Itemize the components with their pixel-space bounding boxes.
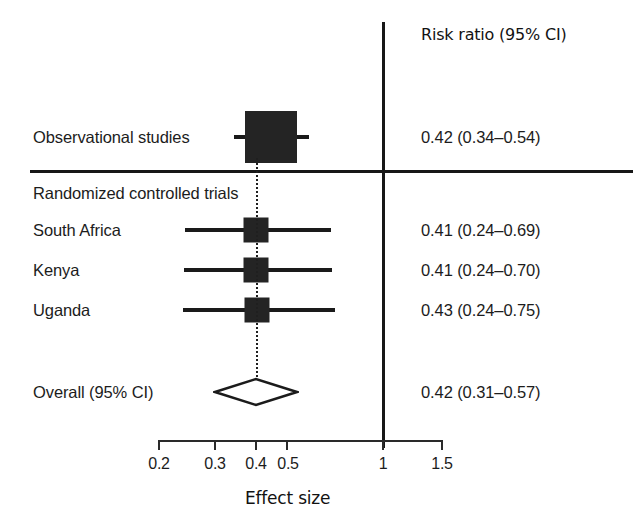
row-label-kenya: Kenya (33, 262, 79, 279)
row-label-overall: Overall (95% CI) (33, 384, 153, 401)
x-axis-title: Effect size (245, 490, 330, 507)
row-label-south-africa: South Africa (33, 222, 121, 239)
row-label-observational-studies: Observational studies (33, 129, 190, 146)
forest-plot: Risk ratio (95% CI) Observational studie… (0, 0, 640, 528)
x-axis-tick-label-1-5: 1.5 (431, 456, 452, 472)
summary-diamond-overall (213, 377, 299, 407)
x-axis-tick-0-4 (255, 440, 257, 450)
x-axis-line (158, 440, 443, 442)
pooled-estimate-guide-line (256, 158, 258, 393)
x-axis-tick-label-0-5: 0.5 (277, 456, 298, 472)
summary-diamond-icon (213, 377, 299, 407)
x-axis-tick-label-0-2: 0.2 (148, 456, 169, 472)
row-label-uganda: Uganda (33, 302, 90, 319)
row-value-observational-studies: 0.42 (0.34–0.54) (421, 129, 541, 146)
row-value-kenya: 0.41 (0.24–0.70) (421, 262, 541, 279)
x-axis-tick-1 (382, 440, 384, 450)
value-column-header: Risk ratio (95% CI) (421, 27, 566, 43)
group-heading-randomized-controlled-trials: Randomized controlled trials (33, 185, 238, 202)
x-axis-tick-0-5 (286, 440, 288, 450)
x-axis-tick-1-5 (441, 440, 443, 450)
x-axis-tick-0-2 (158, 440, 160, 450)
reference-line-vertical (382, 22, 385, 448)
row-value-south-africa: 0.41 (0.24–0.69) (421, 222, 541, 239)
row-value-overall: 0.42 (0.31–0.57) (421, 384, 541, 401)
section-divider (30, 170, 633, 173)
row-value-uganda: 0.43 (0.24–0.75) (421, 302, 541, 319)
x-axis-tick-0-3 (214, 440, 216, 450)
x-axis-tick-label-0-3: 0.3 (204, 456, 225, 472)
x-axis-tick-label-0-4: 0.4 (245, 456, 266, 472)
x-axis-tick-label-1: 1 (379, 456, 388, 472)
effect-marker-observational (245, 111, 297, 163)
